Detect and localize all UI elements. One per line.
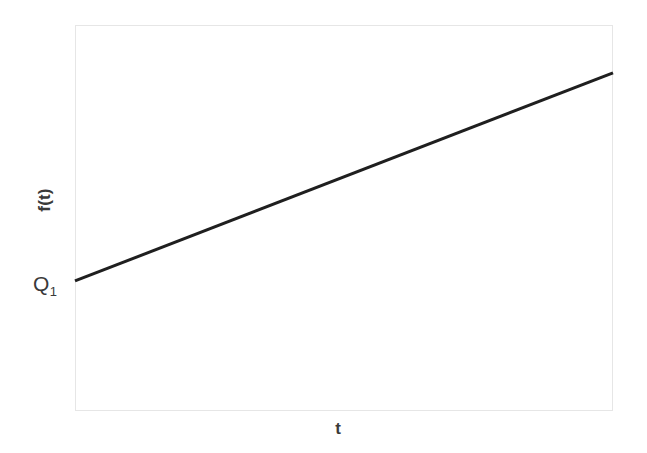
chart-canvas: f(t) t Q1 — [0, 0, 647, 453]
intercept-symbol: Q — [33, 272, 49, 295]
intercept-subscript: 1 — [50, 285, 57, 300]
y-intercept-annotation: Q1 — [33, 273, 57, 298]
x-axis-label: t — [335, 419, 341, 439]
y-axis-label: f(t) — [35, 188, 55, 211]
plot-frame — [75, 25, 613, 411]
